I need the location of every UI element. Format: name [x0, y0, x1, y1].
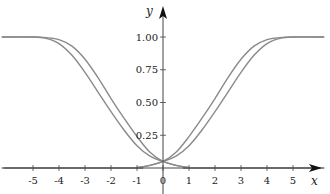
x-tick-label: -4 — [54, 175, 64, 186]
y-tick-label: 1.00 — [136, 32, 158, 43]
x-tick-label: -3 — [80, 175, 90, 186]
x-tick-label: 0 — [160, 175, 166, 186]
x-axis-label: x — [311, 174, 318, 188]
x-tick-label: 2 — [212, 175, 218, 186]
x-tick-label: -1 — [132, 175, 142, 186]
x-tick-label: -5 — [28, 175, 38, 186]
x-tick-label: 4 — [264, 175, 270, 186]
chart: -5-4-3-2-1012345 0.250.500.751.00 x y — [0, 0, 330, 194]
x-tick-label: 3 — [238, 175, 244, 186]
x-tick-label: 5 — [290, 175, 296, 186]
x-tick-label: -2 — [106, 175, 116, 186]
y-tick-label: 0.75 — [136, 64, 158, 75]
y-ticks: 0.250.500.751.00 — [136, 32, 166, 141]
y-tick-label: 0.25 — [136, 130, 158, 141]
x-tick-label: 1 — [186, 175, 192, 186]
y-axis-label: y — [145, 4, 153, 18]
y-tick-label: 0.50 — [136, 97, 158, 108]
